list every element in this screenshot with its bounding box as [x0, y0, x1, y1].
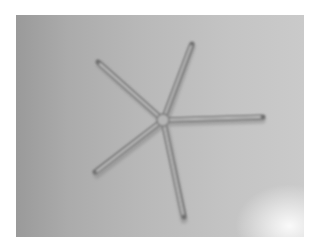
starfish-photo	[16, 15, 304, 237]
starfish-center-disc	[157, 114, 169, 126]
image-subject: starfish	[0, 0, 1, 1]
starfish-arms	[95, 44, 263, 217]
starfish-illustration	[16, 15, 304, 237]
